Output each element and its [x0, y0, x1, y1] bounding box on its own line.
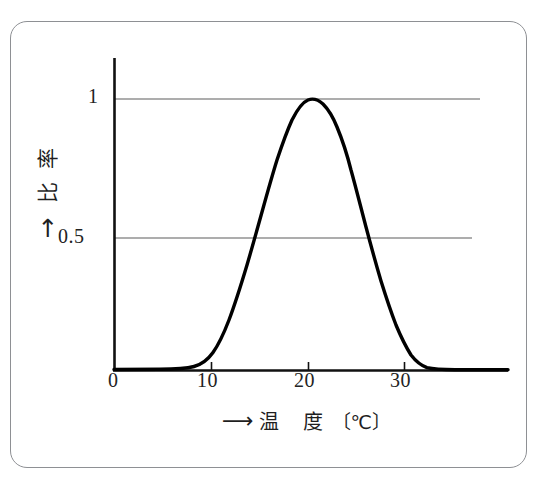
- ytick-label-1: 1: [88, 85, 99, 108]
- xtick-label-10: 10: [197, 369, 218, 392]
- x-axis-unit-text: 〔℃〕: [332, 407, 391, 434]
- xtick-label-20: 20: [294, 369, 315, 392]
- figure-root: 0 10 20 30 1 0.5 率 比 ↑ ⟶ 温 度 〔℃〕: [0, 0, 543, 483]
- x-axis-title-text: 温 度: [259, 406, 325, 435]
- x-axis-title: ⟶ 温 度 〔℃〕: [222, 406, 391, 435]
- data-curve-ratio: [114, 99, 508, 370]
- xtick-label-30: 30: [390, 369, 411, 392]
- y-axis-title-char-2: 比: [38, 182, 59, 203]
- y-axis-arrow-icon: ↑: [38, 216, 59, 241]
- x-axis-arrow-icon: ⟶: [222, 408, 252, 433]
- y-axis-title-char-1: 率: [38, 148, 59, 169]
- xtick-label-0: 0: [108, 369, 119, 392]
- y-axis-title: 率 比 ↑: [31, 148, 65, 241]
